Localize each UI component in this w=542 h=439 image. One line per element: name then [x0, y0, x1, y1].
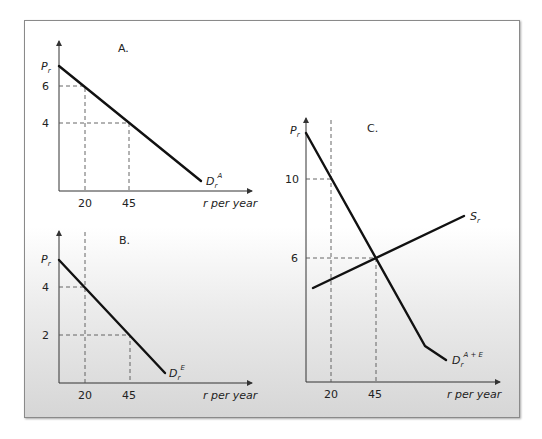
- panel-a-x-label: r per year: [203, 197, 259, 210]
- panel-a-ytick-4: 4: [42, 117, 49, 130]
- panel-b-ytick-4: 4: [42, 281, 49, 294]
- panel-b-ytick-2: 2: [42, 329, 49, 342]
- panel-c-supply-curve: [313, 216, 464, 288]
- panel-c-supply-label: Sr: [470, 210, 481, 225]
- panel-c-title: C.: [367, 122, 378, 135]
- panel-c-x-label: r per year: [447, 388, 503, 401]
- panel-a-xtick-20: 20: [78, 197, 92, 210]
- figure-svg: A. Pr 6 4 20 45 r per year DrA B. Pr 4 2…: [0, 0, 542, 439]
- panel-b-x-label: r per year: [203, 389, 259, 402]
- panel-a-xtick-45: 45: [122, 197, 136, 210]
- panel-c-ytick-10: 10: [285, 173, 299, 186]
- panel-b-xtick-45: 45: [122, 389, 136, 402]
- panel-b-demand-curve: [59, 260, 165, 373]
- panel-a-guide-45: [59, 123, 129, 191]
- panel-c-demand-curve: [306, 133, 446, 360]
- panel-c: C. Pr 10 6 20 45 r per year DrA + E Sr: [285, 118, 503, 401]
- panel-c-ytick-6: 6: [291, 252, 298, 265]
- panel-a-title: A.: [118, 42, 129, 55]
- panel-c-xtick-45: 45: [368, 388, 382, 401]
- panel-a: A. Pr 6 4 20 45 r per year DrA: [41, 41, 259, 210]
- panel-b-title: B.: [119, 234, 130, 247]
- panel-c-guide-45: [306, 258, 376, 382]
- panel-b-xtick-20: 20: [78, 389, 92, 402]
- panel-a-ytick-6: 6: [42, 80, 49, 93]
- panel-c-demand-label: DrA + E: [452, 351, 483, 369]
- panel-b-curve-label: DrE: [169, 364, 185, 382]
- panel-b: B. Pr 4 2 20 45 r per year DrE: [41, 231, 259, 402]
- panel-b-guide-45: [59, 335, 130, 383]
- panel-a-demand-curve: [59, 66, 201, 181]
- panel-c-y-label: Pr: [290, 124, 301, 139]
- panel-a-curve-label: DrA: [206, 172, 222, 190]
- panel-a-guide-20: [59, 86, 85, 191]
- panel-c-xtick-20: 20: [324, 388, 338, 401]
- panel-a-y-label: Pr: [41, 60, 52, 75]
- panel-b-y-label: Pr: [41, 253, 52, 268]
